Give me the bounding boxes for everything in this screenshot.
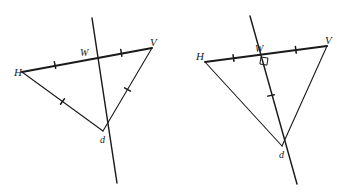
geometry-figure-area: HVWd HVWd (0, 0, 351, 196)
tick-mark-Wd (268, 95, 275, 96)
vertex-label-W: W (80, 47, 90, 58)
vertex-label-H: H (13, 66, 23, 78)
transversal-line (250, 16, 297, 184)
geometry-figure-svg: HVWd HVWd (0, 0, 351, 196)
tick-mark-HW (54, 62, 55, 69)
vertex-label-d: d (100, 134, 106, 145)
tick-mark-WV (295, 46, 296, 53)
tick-mark-WV (121, 49, 122, 56)
tick-mark-Hd (60, 99, 64, 104)
segment-Vd (282, 46, 327, 146)
vertex-label-V: V (325, 34, 333, 46)
vertex-label-d: d (279, 149, 285, 160)
vertex-label-V: V (150, 36, 158, 48)
segment-Hd (205, 62, 282, 146)
tick-mark-HW (233, 55, 234, 62)
segment-HV (205, 46, 327, 62)
vertex-label-W: W (255, 43, 265, 54)
triangle-perpendicular-bisector-diagram: HVWd (195, 16, 333, 184)
vertex-label-H: H (195, 50, 205, 62)
transversal-line (92, 18, 117, 183)
tick-mark-Vd (125, 88, 131, 91)
triangle-cevian-diagram: HVWd (13, 18, 158, 183)
